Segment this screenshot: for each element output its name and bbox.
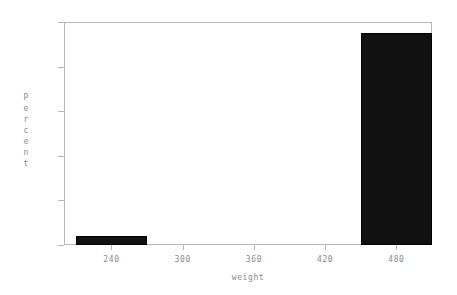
y-axis-tick-mark [58,200,64,201]
bars-layer [64,22,432,245]
y-axis-title-letter: r [20,114,32,125]
y-axis-tick-mark [58,111,64,112]
y-axis-title-letter: e [20,136,32,147]
y-axis-title: Percent [20,92,32,169]
y-axis-title-letter: n [20,147,32,158]
histogram-figure: 020406080100 240300360420480 Percent wei… [0,0,457,295]
histogram-bar [361,33,432,245]
x-axis-title: weight [64,273,432,282]
y-axis-tick-mark [58,67,64,68]
x-axis-tick-mark [254,245,255,250]
y-axis-tick-mark [58,156,64,157]
y-axis-title-letter: e [20,103,32,114]
x-axis-tick-mark [396,245,397,250]
x-axis-tick-label: 240 [81,255,141,264]
x-axis-tick-mark [183,245,184,250]
y-axis-title-letter: P [20,92,32,103]
y-axis-tick-mark [58,245,64,246]
x-axis-tick-label: 300 [153,255,213,264]
x-axis-tick-label: 480 [366,255,426,264]
y-axis-title-letter: c [20,125,32,136]
x-axis-tick-mark [111,245,112,250]
x-axis-tick-mark [325,245,326,250]
y-axis-title-letter: t [20,158,32,169]
x-axis-tick-label: 360 [224,255,284,264]
y-axis-tick-mark [58,22,64,23]
x-axis-tick-label: 420 [295,255,355,264]
y-axis: 020406080100 [0,0,64,295]
histogram-bar [76,236,147,245]
